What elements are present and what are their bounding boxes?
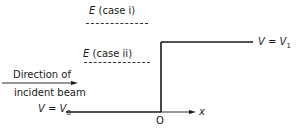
energy-symbol: E — [89, 5, 95, 16]
potential-v1-label: V = V1 — [258, 36, 291, 52]
energy-case-i-line — [86, 23, 148, 24]
x-axis-arrowhead — [189, 110, 196, 114]
energy-case-ii-label: E (case ii) — [83, 48, 132, 59]
energy-case-ii-line — [84, 62, 150, 63]
origin-label: O — [156, 115, 164, 126]
direction-arrowhead — [71, 81, 78, 85]
x-axis-label: x — [199, 106, 205, 117]
case-text: (case i) — [99, 5, 136, 16]
direction-line2: incident beam — [14, 87, 86, 98]
energy-symbol: E — [83, 48, 89, 59]
energy-case-i-label: E (case i) — [89, 5, 135, 16]
potential-v0-label: V = V0 — [38, 103, 71, 119]
direction-line1: Direction of — [13, 69, 71, 80]
case-text: (case ii) — [93, 48, 133, 59]
